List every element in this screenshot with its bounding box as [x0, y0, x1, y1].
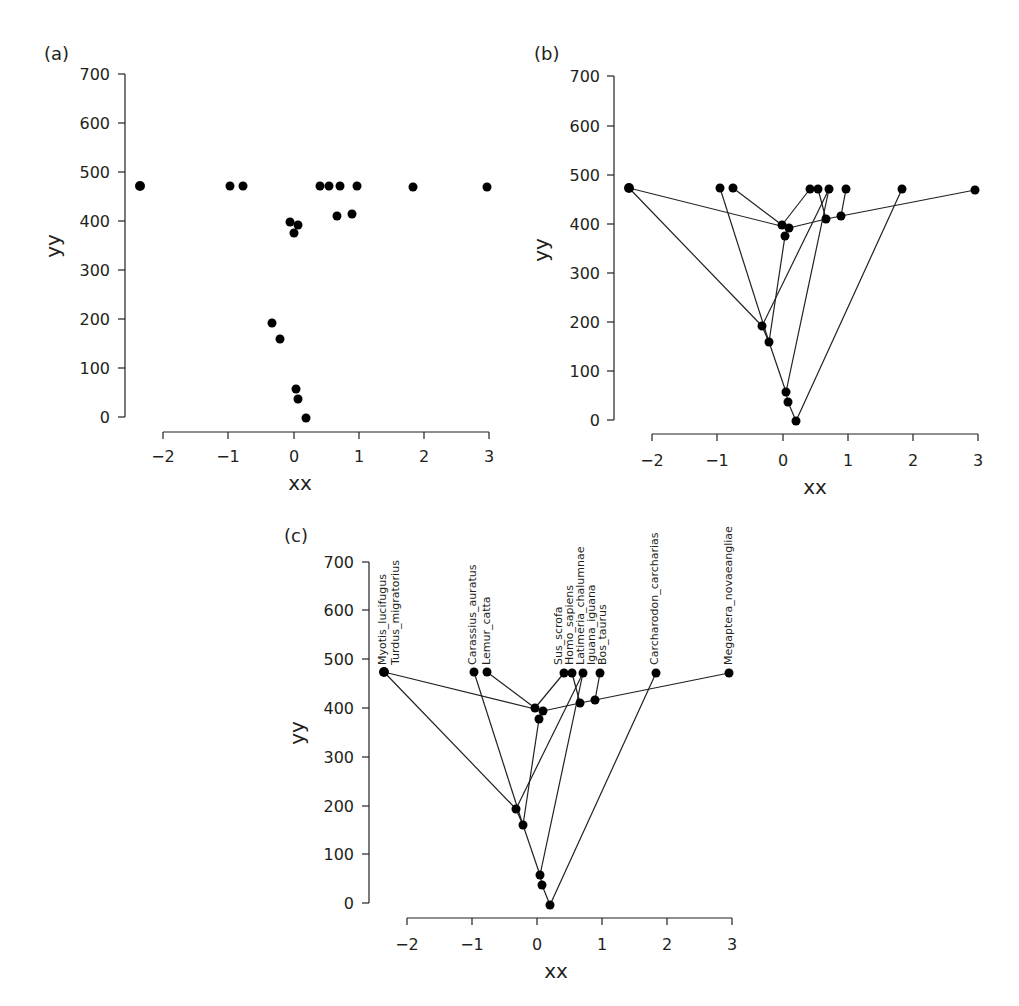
panel-a-label: (a) — [44, 43, 69, 64]
y-tick-label: 400 — [569, 215, 600, 234]
panel-b-x-axis: −2 −1 0 1 2 3 xx — [640, 434, 983, 499]
y-tick-label: 600 — [569, 117, 600, 136]
y-tick-label: 0 — [590, 411, 600, 430]
panel-a-points — [135, 181, 492, 423]
y-tick-label: 700 — [79, 65, 110, 84]
panel-b-points — [624, 183, 980, 426]
panel-a-x-axis: −2 −1 0 1 2 3 xx — [151, 432, 494, 495]
y-tick-label: 400 — [79, 212, 110, 231]
x-tick-label: 0 — [778, 451, 788, 470]
x-axis-title: xx — [288, 471, 312, 495]
x-tick-label: −2 — [395, 935, 419, 954]
panel-c-x-axis: −2 −1 0 1 2 3 xx — [395, 918, 737, 983]
panel-b-y-axis: 0 100 200 300 400 500 600 700 yy — [529, 67, 614, 430]
tip-label: Turdus_migratorius — [389, 560, 402, 666]
x-tick-label: 0 — [289, 447, 299, 466]
y-axis-title: yy — [529, 238, 553, 262]
tip-label: Carcharodon_carcharias — [648, 532, 661, 665]
panel-c-tip-labels: Myotis_lucifugus Turdus_migratorius Cara… — [376, 526, 735, 666]
panel-c-y-axis: 0 100 200 300 400 500 600 700 yy — [285, 553, 369, 913]
y-tick-label: 700 — [569, 67, 600, 86]
y-tick-label: 600 — [323, 601, 354, 620]
x-tick-label: 2 — [419, 447, 429, 466]
x-tick-label: 0 — [532, 935, 542, 954]
x-tick-label: −2 — [640, 451, 664, 470]
panel-b-tree-edges — [629, 188, 975, 421]
y-tick-label: 0 — [344, 894, 354, 913]
x-tick-label: −1 — [460, 935, 484, 954]
tip-label: Bos_taurus — [596, 604, 609, 665]
y-tick-label: 700 — [323, 553, 354, 572]
tip-label: Carassius_auratus — [466, 564, 479, 665]
y-tick-label: 200 — [79, 310, 110, 329]
x-tick-label: 2 — [662, 935, 672, 954]
tip-label: Myotis_lucifugus — [376, 574, 389, 665]
y-tick-label: 100 — [323, 845, 354, 864]
x-tick-label: 1 — [597, 935, 607, 954]
y-tick-label: 0 — [100, 408, 110, 427]
y-tick-label: 500 — [569, 166, 600, 185]
x-tick-label: 3 — [484, 447, 494, 466]
panel-a-y-axis: 0 100 200 300 400 500 600 700 yy — [41, 65, 125, 427]
y-tick-label: 600 — [79, 114, 110, 133]
y-tick-label: 400 — [323, 699, 354, 718]
x-tick-label: −1 — [216, 447, 240, 466]
x-tick-label: 3 — [973, 451, 983, 470]
y-tick-label: 200 — [569, 313, 600, 332]
figure: (a) 0 100 200 300 400 500 600 700 yy — [0, 0, 1019, 1006]
y-tick-label: 500 — [79, 163, 110, 182]
panel-b: (b) 0 100 200 300 400 500 600 700 yy — [529, 43, 983, 499]
panel-c-points — [379, 667, 734, 910]
x-tick-label: 2 — [908, 451, 918, 470]
y-tick-label: 100 — [569, 362, 600, 381]
y-tick-label: 100 — [79, 359, 110, 378]
tip-label: Megaptera_novaeangliae — [722, 526, 735, 665]
x-tick-label: 1 — [354, 447, 364, 466]
y-tick-label: 500 — [323, 650, 354, 669]
x-axis-title: xx — [544, 959, 568, 983]
y-tick-label: 300 — [79, 261, 110, 280]
x-tick-label: 1 — [843, 451, 853, 470]
y-tick-label: 300 — [323, 748, 354, 767]
panel-b-label: (b) — [534, 43, 559, 64]
x-tick-label: −2 — [151, 447, 175, 466]
x-tick-label: −1 — [705, 451, 729, 470]
y-axis-title: yy — [285, 721, 309, 745]
x-axis-title: xx — [803, 475, 827, 499]
panel-c-tree-edges — [384, 672, 729, 905]
y-axis-title: yy — [41, 234, 65, 258]
panel-a: (a) 0 100 200 300 400 500 600 700 yy — [41, 43, 494, 495]
panel-c: (c) 0 100 200 300 400 500 600 700 yy — [284, 525, 737, 983]
x-tick-label: 3 — [727, 935, 737, 954]
y-tick-label: 300 — [569, 264, 600, 283]
y-tick-label: 200 — [323, 797, 354, 816]
tip-label: Lemur_catta — [480, 596, 493, 665]
panel-c-label: (c) — [284, 525, 308, 546]
